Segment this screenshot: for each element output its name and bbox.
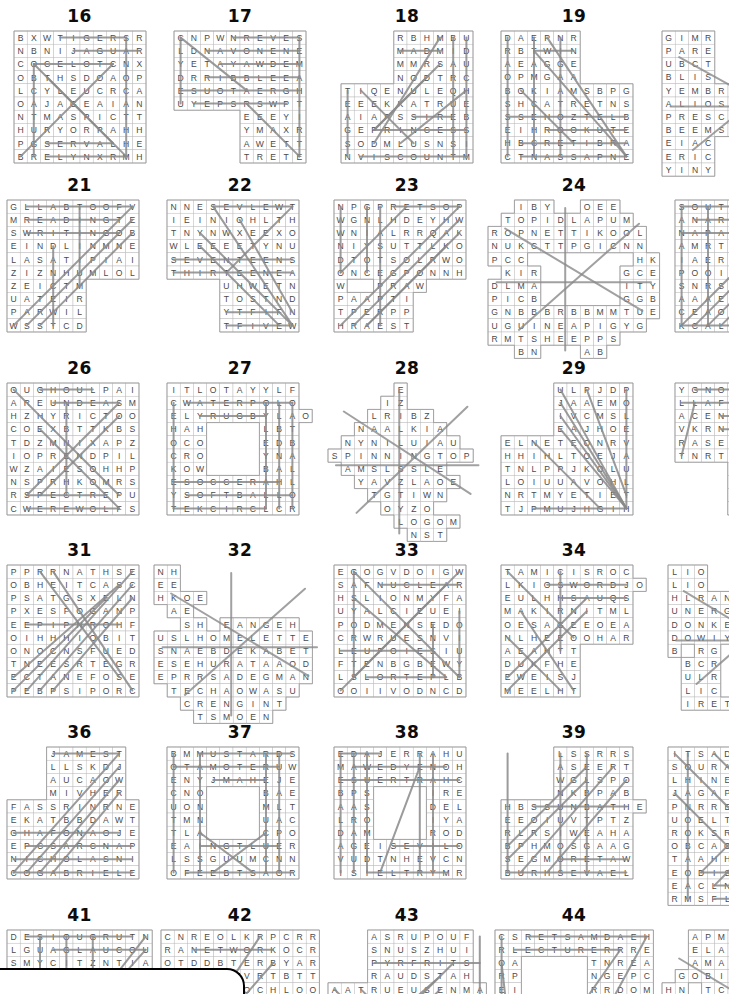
svg-text:A: A [24, 255, 30, 265]
puzzle-board[interactable]: ASRUPOUFSNUSZHUIPYRFRITSRAUDSTAHAATRUEUS… [327, 929, 487, 994]
svg-text:A: A [692, 255, 698, 265]
svg-text:M: M [184, 815, 191, 825]
svg-text:C: C [718, 112, 724, 122]
svg-text:H: H [158, 593, 164, 603]
puzzle-board[interactable]: SOUTHCHINAANARABIANCNAPAJHEIIKAMRTTBHTSA… [674, 199, 729, 333]
puzzle-board[interactable]: GLLABTOOFVMREADINGTESWRITINGOBEINDLINMNE… [6, 199, 153, 333]
svg-text:N: N [410, 530, 416, 540]
puzzle-board[interactable]: ITSADPSARIATSOURALEZTERPLHINERZRIKWIJAGA… [667, 746, 729, 906]
puzzle-board[interactable]: GIMRPAREUBCTBLISYEMBRIETALLRBALIOSTOLNUN… [661, 30, 729, 177]
puzzle-board[interactable]: APMIRTELASIUMAMANNOAIGOBIGCREPMHNTCITKJO… [661, 929, 729, 994]
puzzle-board[interactable]: DAEPNRRBTWINAEAGGEOPMGAABOKIAMSBPGSHCATR… [500, 30, 647, 177]
svg-text:I: I [546, 567, 548, 577]
svg-text:P: P [672, 802, 678, 812]
puzzle-number: 29 [562, 360, 587, 377]
svg-text:I: I [12, 450, 14, 460]
puzzle-26: 26OUGHOULPAIAREUNDEASMHZHYRICTOOCOEXBTTK… [6, 360, 153, 542]
puzzle-board[interactable]: PPRRNATHSEOBHEITCASCPSATGSXELNPXESFOGANP… [6, 564, 153, 698]
puzzle-board[interactable]: EDAJERRAHUMAWEDYENOHESUERTRAHCBPSIREAASD… [333, 746, 480, 893]
svg-text:S: S [37, 255, 43, 265]
puzzle-board[interactable]: CNPWNREVESLDNAVONENEYETAYAWDEMDRRIBBLEEA… [173, 30, 307, 164]
puzzle-board[interactable]: EGOGVDOIGWSAFNUCLEARHSLIONMYFAUYALCIEUEI… [333, 564, 480, 698]
svg-text:E: E [672, 868, 678, 878]
svg-text:E: E [558, 321, 564, 331]
svg-text:I: I [573, 567, 575, 577]
svg-text:G: G [698, 789, 705, 799]
svg-text:R: R [711, 802, 717, 812]
svg-text:M: M [531, 567, 538, 577]
puzzle-board[interactable]: NNESEVLEWTIEINIOHLTHTNYNWXEEXOWLEEEETYNU… [166, 199, 313, 333]
svg-text:A: A [624, 828, 630, 838]
svg-text:I: I [252, 699, 254, 709]
svg-text:A: A [424, 477, 430, 487]
svg-text:U: U [665, 59, 671, 69]
puzzle-board[interactable]: BXWTIGERSRNBNIJAGUARCOCELOTCNXOBTHSDOAOP… [13, 30, 147, 164]
svg-text:E: E [598, 202, 604, 212]
svg-text:R: R [417, 228, 423, 238]
svg-text:A: A [37, 464, 43, 474]
svg-text:N: N [377, 659, 383, 669]
svg-text:G: G [263, 672, 270, 682]
puzzle-board[interactable]: OUGHOULPAIAREUNDEASMHZHYRICTOOCOEXBTTKBS… [6, 382, 153, 516]
svg-text:A: A [77, 567, 83, 577]
svg-text:R: R [571, 99, 577, 109]
svg-text:R: R [624, 633, 630, 643]
svg-text:P: P [597, 789, 603, 799]
svg-text:T: T [719, 450, 725, 460]
svg-text:N: N [384, 450, 390, 460]
puzzle-board[interactable]: NHEEHKOEAESHEANGEHUSLHOMELETTESNAEBDEKAB… [153, 564, 327, 724]
svg-text:A: A [611, 842, 617, 852]
svg-text:L: L [673, 567, 678, 577]
svg-text:K: K [77, 477, 83, 487]
svg-text:E: E [692, 945, 698, 955]
svg-text:Y: Y [283, 958, 289, 968]
svg-text:P: P [597, 815, 603, 825]
svg-text:T: T [624, 308, 630, 318]
svg-text:C: C [17, 59, 23, 69]
svg-text:J: J [598, 384, 602, 394]
svg-text:S: S [398, 112, 404, 122]
svg-text:P: P [492, 255, 498, 265]
svg-text:I: I [533, 321, 535, 331]
svg-text:B: B [571, 308, 577, 318]
puzzle-board[interactable]: EIZLRIBZNAALKIANYNILUIAUSPINNINGTOPAMSLS… [327, 382, 487, 542]
puzzle-board[interactable]: RBHMBUMADMIDMMRSAUNODTRCTIQENULEQHEEEKKA… [340, 30, 474, 164]
svg-text:A: A [411, 99, 417, 109]
puzzle-board[interactable]: IBYOEETOPIDLAPUMROPNETTIKOOLNUKCTTPGICNN… [487, 199, 661, 359]
svg-text:R: R [705, 450, 711, 460]
puzzle-18: 18RBHMBUMADMIDMMRSAUNODTRCTIQENULEQHEEEK… [327, 8, 487, 177]
puzzle-board[interactable]: LIOPGHLIONBGCHLRANSOCUPUEUNERGITKRMNEDON… [667, 564, 729, 711]
puzzle-board[interactable]: BMMUSTARDSOTAMOTERUWENYJMAHEJECNOBAEUONM… [166, 746, 313, 893]
svg-text:U: U [391, 242, 397, 252]
svg-text:E: E [11, 242, 17, 252]
puzzle-22: 22NNESEVLEWTIEINIOHLTHTNYNWXEEXOWLEEEETY… [153, 177, 327, 359]
puzzle-board[interactable]: ITLOTAYYLFCWATERPOLOELYRUGBYLAOHAHLBTOCO… [166, 382, 313, 529]
svg-text:D: D [364, 620, 370, 630]
svg-text:N: N [290, 281, 296, 291]
svg-text:K: K [384, 99, 390, 109]
svg-text:R: R [718, 86, 724, 96]
puzzle-board[interactable]: LSSRRSASEERTWGLSPONKBPABHBSSUNBATHEEEOIU… [500, 746, 647, 893]
svg-text:P: P [24, 567, 30, 577]
svg-text:R: R [371, 971, 377, 981]
svg-text:V: V [391, 686, 397, 696]
svg-text:S: S [70, 112, 76, 122]
svg-text:C: C [90, 411, 96, 421]
svg-text:U: U [410, 984, 416, 994]
puzzle-board[interactable]: ULPJDPJAAEMOIVCMSLEAJHOEELNETEONRVHHIHLT… [500, 382, 647, 529]
svg-text:G: G [665, 33, 672, 43]
puzzle-board[interactable]: CSRETSAMDAEHRLECTURERRREOATNREARPNGEPCEI… [494, 929, 654, 994]
svg-text:Y: Y [264, 384, 270, 394]
svg-text:P: P [103, 384, 109, 394]
svg-text:U: U [430, 606, 436, 616]
puzzle-board[interactable]: YGNOBALLIBLLAFRETAWEACENSTREAMVKRNGNRPSR… [674, 382, 729, 529]
svg-text:S: S [705, 437, 711, 447]
svg-text:M: M [704, 125, 711, 135]
svg-text:W: W [170, 242, 179, 252]
svg-text:U: U [397, 971, 403, 981]
puzzle-number: 27 [228, 360, 253, 377]
puzzle-board[interactable]: TAMICISROCLKIOSWORDJOEULHHSAUQSMAKIRNITM… [500, 564, 647, 698]
svg-text:A: A [457, 593, 463, 603]
puzzle-board[interactable]: JAMESTLLSKDJAUCAOWMIVHERFASSRINRNEEKATBB… [6, 746, 153, 880]
puzzle-board[interactable]: NPGPRETSOPWGNLHDEYHWWNIALRRQAKNIYSUTTLKO… [333, 199, 480, 333]
